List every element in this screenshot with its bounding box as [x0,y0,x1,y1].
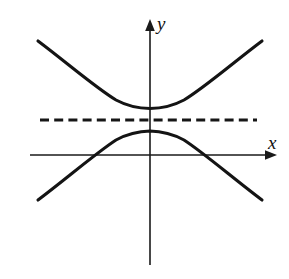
hyperbola-figure: y x [0,0,289,279]
x-axis-label: x [267,132,277,153]
x-axis [30,150,277,160]
y-axis [145,19,155,265]
y-axis-label: y [155,13,166,34]
y-axis-arrowhead [145,19,155,31]
figure-canvas: y x [0,0,289,279]
